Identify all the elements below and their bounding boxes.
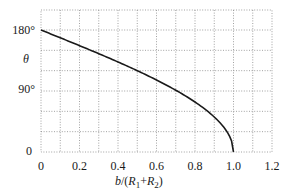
x-axis-label: b/(R1+R2) [115, 174, 163, 190]
x-tick-label: 1.0 [226, 159, 241, 173]
x-tick-label: 1.2 [265, 159, 280, 173]
x-tick-labels: 00.20.40.60.81.01.2 [38, 159, 280, 173]
y-axis-label: θ [23, 52, 29, 66]
theta-vs-b-chart: 00.20.40.60.81.01.2 180° θ 90° 0 b/(R1+R… [0, 0, 291, 191]
grid-lines [41, 10, 272, 152]
y-tick-180: 180° [12, 23, 35, 37]
x-tick-label: 0 [38, 159, 44, 173]
x-tick-label: 0.2 [72, 159, 87, 173]
y-tick-90: 90° [18, 82, 35, 96]
y-tick-0: 0 [26, 144, 32, 158]
x-tick-label: 0.6 [149, 159, 164, 173]
x-tick-label: 0.8 [188, 159, 203, 173]
x-tick-label: 0.4 [111, 159, 126, 173]
